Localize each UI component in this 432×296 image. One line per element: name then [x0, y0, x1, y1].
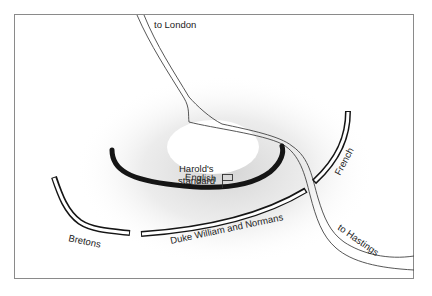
label-to-london: to London [154, 19, 196, 30]
label-english: English [185, 171, 217, 184]
battle-map: to London Harold's standard English Fren… [0, 0, 432, 296]
